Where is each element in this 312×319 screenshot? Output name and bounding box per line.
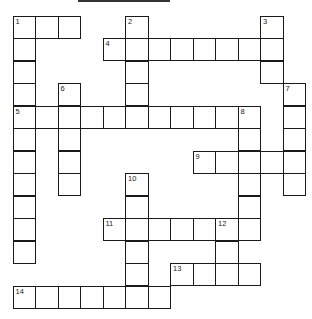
crossword-cell[interactable]: 11 — [103, 218, 127, 241]
crossword-cell[interactable] — [125, 218, 149, 241]
crossword-cell[interactable] — [125, 106, 149, 129]
crossword-cell[interactable] — [148, 38, 172, 61]
crossword-cell[interactable] — [215, 263, 239, 286]
crossword-cell[interactable]: 8 — [238, 106, 262, 129]
crossword-cell[interactable] — [13, 218, 37, 241]
crossword-cell[interactable]: 3 — [260, 16, 284, 39]
crossword-cell[interactable] — [170, 106, 194, 129]
crossword-cell[interactable] — [13, 241, 37, 264]
crossword-cell[interactable] — [215, 151, 239, 174]
crossword-cell[interactable]: 4 — [103, 38, 127, 61]
crossword-cell[interactable] — [283, 128, 307, 151]
crossword-cell[interactable] — [125, 61, 149, 84]
crossword-cell[interactable] — [238, 263, 262, 286]
crossword-cell[interactable] — [260, 38, 284, 61]
crossword-cell[interactable] — [215, 241, 239, 264]
crossword-cell[interactable]: 13 — [170, 263, 194, 286]
clue-number: 9 — [196, 153, 200, 161]
crossword-cell[interactable] — [13, 173, 37, 196]
crossword-cell[interactable] — [58, 286, 82, 309]
crossword-cell[interactable]: 14 — [13, 286, 37, 309]
crossword-cell[interactable] — [148, 286, 172, 309]
crossword-cell[interactable] — [125, 196, 149, 219]
crossword-cell[interactable] — [260, 61, 284, 84]
crossword-cell[interactable] — [35, 286, 59, 309]
crossword-cell[interactable] — [58, 151, 82, 174]
crossword-cell[interactable]: 12 — [215, 218, 239, 241]
crossword-cell[interactable] — [13, 83, 37, 106]
crossword-cell[interactable] — [58, 173, 82, 196]
crossword-cell[interactable]: 1 — [13, 16, 37, 39]
crossword-cell[interactable]: 2 — [125, 16, 149, 39]
clue-number: 5 — [16, 108, 20, 116]
crossword-cell[interactable] — [170, 218, 194, 241]
crossword-cell[interactable]: 6 — [58, 83, 82, 106]
crossword-cell[interactable] — [103, 106, 127, 129]
crossword-cell[interactable] — [238, 151, 262, 174]
crossword-cell[interactable] — [125, 263, 149, 286]
crossword-cell[interactable] — [13, 61, 37, 84]
clue-number: 2 — [128, 18, 132, 26]
crossword-cell[interactable] — [170, 38, 194, 61]
crossword-cell[interactable] — [283, 151, 307, 174]
crossword-cell[interactable] — [193, 218, 217, 241]
crossword-cell[interactable] — [238, 38, 262, 61]
clue-number: 10 — [128, 175, 136, 183]
crossword-cell[interactable] — [283, 173, 307, 196]
crossword-cell[interactable] — [148, 218, 172, 241]
crossword-cell[interactable] — [193, 263, 217, 286]
crossword-cell[interactable] — [13, 38, 37, 61]
crossword-cell[interactable] — [58, 128, 82, 151]
crossword-cell[interactable] — [193, 106, 217, 129]
clue-number: 1 — [16, 18, 20, 26]
crossword-cell[interactable]: 7 — [283, 83, 307, 106]
clue-number: 4 — [106, 40, 110, 48]
crossword-cell[interactable] — [238, 218, 262, 241]
crossword-cell[interactable] — [13, 128, 37, 151]
crossword-cell[interactable] — [193, 38, 217, 61]
crossword-cell[interactable] — [238, 196, 262, 219]
clue-number: 7 — [286, 85, 290, 93]
crossword-cell[interactable] — [80, 286, 104, 309]
crossword-cell[interactable] — [125, 83, 149, 106]
clue-number: 13 — [173, 265, 181, 273]
crossword-cell[interactable] — [283, 106, 307, 129]
clue-number: 8 — [241, 108, 245, 116]
crossword-cell[interactable] — [13, 151, 37, 174]
crossword-cell[interactable]: 10 — [125, 173, 149, 196]
crossword-cell[interactable] — [215, 106, 239, 129]
crossword-cell[interactable] — [125, 286, 149, 309]
clue-number: 12 — [218, 220, 226, 228]
crossword-cell[interactable] — [58, 16, 82, 39]
clue-number: 14 — [16, 288, 24, 296]
crossword-grid: 1523486791011121314 — [0, 0, 312, 319]
crossword-cell[interactable] — [238, 173, 262, 196]
clue-number: 6 — [61, 85, 65, 93]
crossword-cell[interactable] — [35, 16, 59, 39]
clue-number: 3 — [263, 18, 267, 26]
crossword-cell[interactable] — [13, 196, 37, 219]
crossword-cell[interactable] — [215, 38, 239, 61]
crossword-cell[interactable] — [260, 151, 284, 174]
crossword-cell[interactable]: 5 — [13, 106, 37, 129]
crossword-cell[interactable] — [125, 38, 149, 61]
clue-number: 11 — [106, 220, 114, 228]
crossword-cell[interactable]: 9 — [193, 151, 217, 174]
crossword-cell[interactable] — [58, 106, 82, 129]
crossword-cell[interactable] — [238, 128, 262, 151]
crossword-cell[interactable] — [80, 106, 104, 129]
crossword-cell[interactable] — [103, 286, 127, 309]
crossword-cell[interactable] — [125, 241, 149, 264]
crossword-cell[interactable] — [148, 106, 172, 129]
crossword-cell[interactable] — [35, 106, 59, 129]
